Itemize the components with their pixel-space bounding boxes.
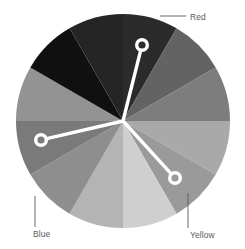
color-wheel-widget: Red Blue Yellow — [0, 0, 245, 249]
color-wheel-canvas[interactable] — [0, 0, 245, 249]
label-red: Red — [190, 12, 206, 22]
label-blue: Blue — [33, 229, 50, 239]
label-yellow: Yellow — [190, 230, 215, 240]
